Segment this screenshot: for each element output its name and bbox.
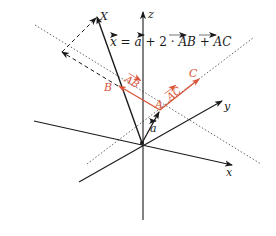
y-axis-label: y: [223, 100, 231, 113]
equation: x = a + 2 · AB + AC: [110, 35, 231, 49]
y-axis: [79, 101, 222, 182]
svg-text:a: a: [150, 122, 157, 135]
vector-AC-label: AC: [164, 85, 184, 104]
vector-diagram: x y z X A B C a AB AC x = a + 2 · AB + A…: [0, 0, 276, 236]
point-B-label: B: [103, 81, 112, 94]
svg-text:AC: AC: [164, 85, 184, 104]
x-axis-label: x: [226, 166, 233, 179]
origin-point: [140, 141, 144, 145]
point-C-label: C: [189, 67, 198, 80]
point-A-label: A: [154, 98, 163, 111]
svg-text:x = a + 2 · AB + AC: x = a + 2 · AB + AC: [110, 35, 231, 49]
vector-AB-label: AB: [122, 73, 141, 90]
z-axis-label: z: [147, 8, 154, 21]
svg-text:AB: AB: [122, 73, 141, 90]
vector-a-label: a: [150, 121, 157, 135]
point-X-label: X: [99, 10, 109, 23]
